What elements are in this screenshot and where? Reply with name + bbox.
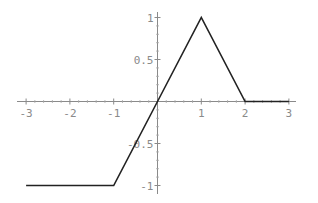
x-tick-label: 2	[242, 107, 249, 120]
line-chart: -3-2-1123 10.5-0.5-1	[0, 0, 318, 203]
x-tick-label: 3	[286, 107, 293, 120]
y-tick-label: -0.5	[127, 138, 154, 151]
x-tick-label: -3	[19, 107, 32, 120]
x-tick-label: -1	[107, 107, 120, 120]
x-tick-label: -2	[63, 107, 76, 120]
y-tick-label: 0.5	[134, 54, 154, 67]
x-tick-label: 1	[198, 107, 205, 120]
x-tick-labels: -3-2-1123	[19, 107, 292, 120]
y-tick-label: -1	[140, 180, 153, 193]
y-tick-label: 1	[147, 12, 154, 25]
